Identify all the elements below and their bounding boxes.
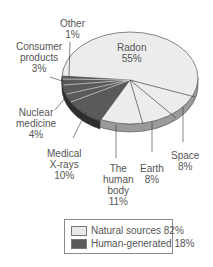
label-earth-name: Earth	[140, 163, 164, 174]
label-other-name: Other	[60, 18, 85, 29]
label-other-pct: 1%	[60, 29, 85, 40]
label-xrays-name-2: X-rays	[47, 159, 81, 170]
label-other: Other 1%	[60, 18, 85, 40]
label-consumer-name-1: Consumer	[16, 41, 62, 52]
label-xrays-pct: 10%	[47, 170, 81, 181]
label-earth: Earth 8%	[140, 163, 164, 185]
label-body-pct: 11%	[103, 196, 134, 207]
label-nuclear-name-1: Nuclear	[16, 107, 56, 118]
label-radon-name: Radon	[117, 42, 146, 53]
legend-item-human: Human-generated 18%	[71, 238, 194, 249]
label-radon-pct: 55%	[117, 53, 146, 64]
label-xrays-name-1: Medical	[47, 148, 81, 159]
label-body-name-3: body	[103, 185, 134, 196]
label-body-name-2: human	[103, 174, 134, 185]
label-earth-pct: 8%	[140, 174, 164, 185]
label-body-name-1: The	[103, 163, 134, 174]
legend-swatch-human	[71, 239, 87, 249]
legend-label-human: Human-generated 18%	[91, 238, 194, 249]
label-consumer-name-2: products	[16, 52, 62, 63]
label-nuclear-name-2: medicine	[16, 118, 56, 129]
label-space-name: Space	[171, 150, 199, 161]
legend-label-natural: Natural sources 82%	[91, 225, 184, 236]
label-radon: Radon 55%	[117, 42, 146, 64]
label-space: Space 8%	[171, 150, 199, 172]
label-human-body: The human body 11%	[103, 163, 134, 207]
label-consumer-pct: 3%	[16, 63, 62, 74]
label-consumer-products: Consumer products 3%	[16, 41, 62, 74]
label-medical-xrays: Medical X-rays 10%	[47, 148, 81, 181]
label-nuclear-pct: 4%	[16, 129, 56, 140]
legend-item-natural: Natural sources 82%	[71, 225, 184, 236]
legend: Natural sources 82% Human-generated 18%	[64, 219, 173, 254]
legend-swatch-natural	[71, 226, 87, 236]
label-space-pct: 8%	[171, 161, 199, 172]
label-nuclear-medicine: Nuclear medicine 4%	[16, 107, 56, 140]
